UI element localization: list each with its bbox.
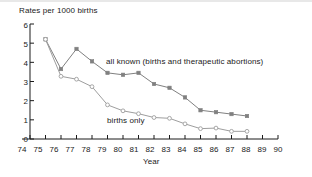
plot-area xyxy=(0,0,312,177)
x-axis-ticks xyxy=(30,135,278,139)
series-line-births-only xyxy=(46,39,248,131)
y-axis-ticks xyxy=(30,24,34,139)
series-markers-all-known xyxy=(44,38,249,118)
chart-container: Rates per 1000 births all known (births … xyxy=(0,0,312,177)
